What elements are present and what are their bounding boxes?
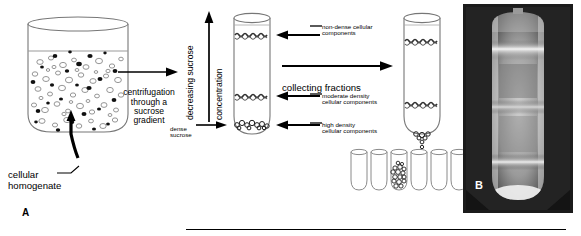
cellular-homogenate-leader [57,165,83,177]
panel-b-letter-text: B [475,179,483,191]
concentration-arrow [203,10,215,122]
collecting-fractions-label: collecting fractions [282,73,361,94]
dense-sucrose-text: dense sucrose [170,125,192,139]
centrifugation-arrow [118,66,180,78]
cellular-homogenate-label: cellular homogenate [8,160,61,191]
high-density-text: high density cellular components [322,121,377,135]
dense-sucrose-arrow [196,120,228,130]
homogenate-pointer-arrow [40,108,86,160]
collecting-fractions-tube [398,8,446,158]
figure-root: cellular homogenate centrifugation throu… [0,0,581,236]
non-dense-label: non-dense cellular components [322,17,373,37]
centrifugation-text: centrifugation through a sucrose gradien… [123,87,175,125]
concentration-text: concentration [214,68,224,120]
fraction-tube-rack [348,146,470,194]
non-dense-text: non-dense cellular components [322,23,373,37]
high-density-label: high density cellular components [322,115,377,135]
moderate-density-text: moderate density cellular components [322,92,377,106]
collecting-fractions-text: collecting fractions [282,82,361,93]
non-dense-callout-arrow [276,30,320,40]
decreasing-sucrose-text: decreasing sucrose [185,45,195,120]
dense-sucrose-label: dense sucrose [170,119,192,139]
high-density-leader [310,121,322,125]
panel-a-letter: A [22,207,29,218]
cellular-homogenate-text: cellular homogenate [8,169,61,190]
sucrose-gradient-tube [228,8,276,140]
bottom-divider [186,229,566,230]
non-dense-leader [310,24,322,28]
collecting-arrow [282,60,394,72]
centrifuge-tube-photograph: B [463,4,573,213]
panel-a-text: A [22,207,29,218]
